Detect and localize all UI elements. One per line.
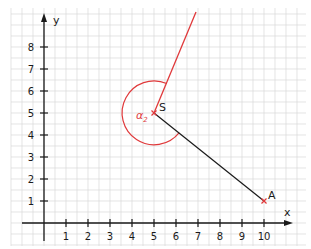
angle-subscript: 2 [143,116,148,124]
y-axis-label: y [53,14,60,27]
x-axis-label: x [284,206,291,219]
x-axis-arrow-icon [284,220,293,226]
x-tick-label: 6 [173,231,179,242]
y-tick-label: 2 [28,174,34,185]
y-tick-label: 6 [28,86,34,97]
x-tick-label: 7 [195,231,201,242]
y-tick-label: 8 [28,42,34,53]
y-tick-label: 4 [28,130,34,141]
y-tick-label: 3 [28,152,34,163]
grid [11,8,306,246]
coordinate-diagram: 12345678910 12345678 x y S A α2 [0,0,311,249]
x-axis [22,220,293,226]
x-tick-label: 5 [151,231,157,242]
y-axis-arrow-icon [41,13,47,22]
x-tick-label: 4 [129,231,135,242]
y-tick-label: 7 [28,64,34,75]
y-tick-label: 1 [28,196,34,207]
y-ticks: 12345678 [28,42,48,207]
ray-s [154,12,196,113]
x-tick-label: 10 [258,231,271,242]
diagram-canvas: 12345678910 12345678 x y S A α2 [0,0,311,249]
x-tick-label: 3 [107,231,113,242]
point-a-label: A [268,189,276,202]
x-tick-label: 2 [85,231,91,242]
x-tick-label: 8 [217,231,223,242]
angle-label: α2 [136,109,148,124]
x-tick-label: 9 [239,231,245,242]
y-tick-label: 5 [28,108,34,119]
point-s-label: S [159,101,166,114]
x-tick-label: 1 [63,231,69,242]
